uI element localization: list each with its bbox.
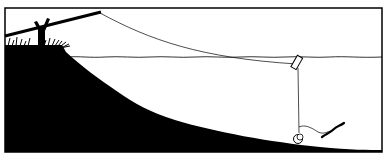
fishing-illustration <box>0 0 387 155</box>
sinker-highlight <box>297 134 303 140</box>
